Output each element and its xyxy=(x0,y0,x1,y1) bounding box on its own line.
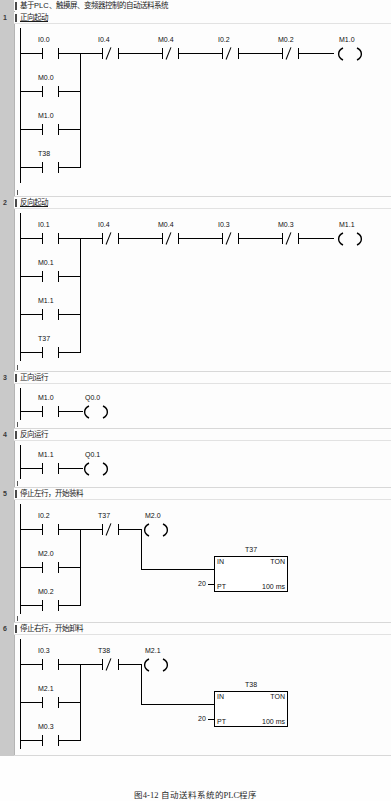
contact-label: M0.2 xyxy=(278,36,294,43)
contact-label: I0.0 xyxy=(38,36,50,43)
contact-label: I0.3 xyxy=(38,647,50,654)
comment-tick-icon xyxy=(15,490,17,498)
network-3-comment-row: 正向运行 xyxy=(14,372,391,384)
timer-type-label: TON xyxy=(270,693,285,700)
timer-block-t37[interactable]: T37 IN TON PT 100 ms xyxy=(214,556,288,592)
network-5[interactable]: 5 停止左行，开始装料 I0.2 M2.0 M0.2 xyxy=(0,488,391,616)
network-number-2: 2 xyxy=(3,199,7,207)
timer-branch-drop-5 xyxy=(141,529,142,570)
timer-pt-value-t38: 20 xyxy=(198,715,206,722)
contact-label: M2.0 xyxy=(38,550,54,557)
timer-pt-value-t37: 20 xyxy=(198,580,206,587)
network-1-comment: 正向起动 xyxy=(20,13,48,22)
left-power-rail-5 xyxy=(20,504,21,614)
network-2[interactable]: 2 反向起动 I0.1 M0.1 M1.1 xyxy=(0,197,391,365)
coil-label: M1.1 xyxy=(339,221,355,228)
network-1[interactable]: 1 正向起动 I0.0 M0.0 M1.0 xyxy=(0,12,391,190)
coil-icon xyxy=(336,47,364,61)
branch-bus-1 xyxy=(80,53,81,168)
contact-label: T38 xyxy=(38,150,50,157)
timer-pt-label: PT xyxy=(217,718,226,725)
left-power-rail-3 xyxy=(20,388,21,420)
comment-tick-icon xyxy=(15,14,17,22)
network-number-5: 5 xyxy=(3,490,7,498)
network-number-3: 3 xyxy=(3,374,7,382)
network-number-4: 4 xyxy=(3,431,7,439)
coil-label: M2.0 xyxy=(145,512,161,519)
contact-label: I0.4 xyxy=(98,36,110,43)
network-2-canvas: I0.1 M0.1 M1.1 T37 xyxy=(14,209,391,365)
gutter-title xyxy=(0,0,15,12)
network-number-6: 6 xyxy=(3,625,7,633)
gutter-6 xyxy=(0,623,15,751)
contact-label: M0.4 xyxy=(158,221,174,228)
network-4-comment-row: 反向运行 xyxy=(14,429,391,441)
timer-type-label: TON xyxy=(270,558,285,565)
timer-branch-run-6 xyxy=(141,704,214,705)
network-6-comment: 停止右行，开始卸料 xyxy=(20,624,83,633)
timer-time-base: 100 ms xyxy=(262,718,285,725)
network-3-canvas: M1.0 Q0.0 xyxy=(14,384,391,422)
program-title-block: 基于PLC、触摸屏、变频器控制的自动送料系统 xyxy=(0,0,391,12)
comment-tick-icon xyxy=(15,431,17,439)
contact-label: T37 xyxy=(98,512,110,519)
contact-label: I0.2 xyxy=(38,512,50,519)
gutter-5 xyxy=(0,488,15,616)
contact-label: I0.1 xyxy=(38,221,50,228)
timer-name: T38 xyxy=(245,681,257,688)
title-tick-mark xyxy=(15,2,17,10)
network-separator-3 xyxy=(0,422,391,429)
contact-label: T37 xyxy=(38,335,50,342)
branch-bus-5 xyxy=(80,529,81,606)
timer-name: T37 xyxy=(245,546,257,553)
contact-label: I0.2 xyxy=(218,36,230,43)
timer-pt-lead-6 xyxy=(208,719,215,720)
timer-branch-run-5 xyxy=(141,569,214,570)
network-3-comment: 正向运行 xyxy=(20,373,48,382)
contact-label: M0.3 xyxy=(278,221,294,228)
timer-block-t38[interactable]: T38 IN TON PT 100 ms xyxy=(214,691,288,727)
network-separator-4 xyxy=(0,481,391,488)
left-power-rail-6 xyxy=(20,639,21,749)
coil-label: Q0.0 xyxy=(85,394,100,401)
timer-time-base: 100 ms xyxy=(262,583,285,590)
comment-tick-icon xyxy=(15,625,17,633)
network-5-comment-row: 停止左行，开始装料 xyxy=(14,488,391,500)
timer-in-label: IN xyxy=(217,558,224,565)
network-4-comment: 反向运行 xyxy=(20,430,48,439)
coil-icon xyxy=(82,405,110,419)
network-separator-1 xyxy=(0,190,391,197)
comment-tick-icon xyxy=(15,374,17,382)
gutter-1 xyxy=(0,12,15,190)
coil-label: M1.0 xyxy=(339,36,355,43)
network-5-comment: 停止左行，开始装料 xyxy=(20,489,83,498)
left-power-rail-2 xyxy=(20,213,21,361)
contact-label: M0.0 xyxy=(38,74,54,81)
branch-bus-2 xyxy=(80,238,81,353)
contact-label: M1.0 xyxy=(38,394,54,401)
network-2-comment-row: 反向起动 xyxy=(14,197,391,209)
program-title-row: 基于PLC、触摸屏、变频器控制的自动送料系统 xyxy=(14,0,391,11)
contact-label: M2.1 xyxy=(38,685,54,692)
contact-label: M1.1 xyxy=(38,297,54,304)
program-title: 基于PLC、触摸屏、变频器控制的自动送料系统 xyxy=(20,1,168,10)
gutter-2 xyxy=(0,197,15,365)
left-power-rail-1 xyxy=(20,28,21,183)
network-4-canvas: M1.1 Q0.1 xyxy=(14,441,391,481)
contact-label: I0.3 xyxy=(218,221,230,228)
contact-label: I0.4 xyxy=(98,221,110,228)
left-power-rail-4 xyxy=(20,445,21,479)
network-number-1: 1 xyxy=(3,14,7,22)
network-6-canvas: I0.3 M2.1 M0.3 T38 xyxy=(14,635,391,751)
timer-pt-lead-5 xyxy=(208,584,215,585)
timer-branch-drop-6 xyxy=(141,664,142,705)
network-1-comment-row: 正向起动 xyxy=(14,12,391,24)
network-4[interactable]: 4 反向运行 M1.1 Q0.1 xyxy=(0,429,391,481)
contact-label: M0.2 xyxy=(38,588,54,595)
network-6[interactable]: 6 停止右行，开始卸料 I0.3 M2.1 M0.3 xyxy=(0,623,391,751)
network-3[interactable]: 3 正向运行 M1.0 Q0.0 xyxy=(0,372,391,422)
comment-tick-icon xyxy=(15,199,17,207)
network-separator-2 xyxy=(0,365,391,372)
contact-label: M1.1 xyxy=(38,451,54,458)
contact-label: T38 xyxy=(98,647,110,654)
